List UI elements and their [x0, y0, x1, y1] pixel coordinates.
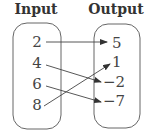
output-value: −2: [103, 73, 125, 91]
input-header: Input: [14, 1, 58, 17]
input-value: 2: [32, 33, 42, 51]
output-header: Output: [88, 1, 144, 17]
output-value: 5: [112, 34, 122, 52]
input-value: 6: [32, 75, 42, 93]
arrow-4-to-neg2: [46, 65, 101, 82]
mapping-diagram: Input Output 2 4 6 8 5 1 −2 −7: [0, 0, 146, 137]
output-value: −7: [103, 92, 125, 110]
input-value: 4: [32, 54, 42, 72]
input-value: 8: [32, 96, 42, 114]
arrow-8-to-1: [44, 64, 110, 106]
output-value: 1: [112, 53, 122, 71]
